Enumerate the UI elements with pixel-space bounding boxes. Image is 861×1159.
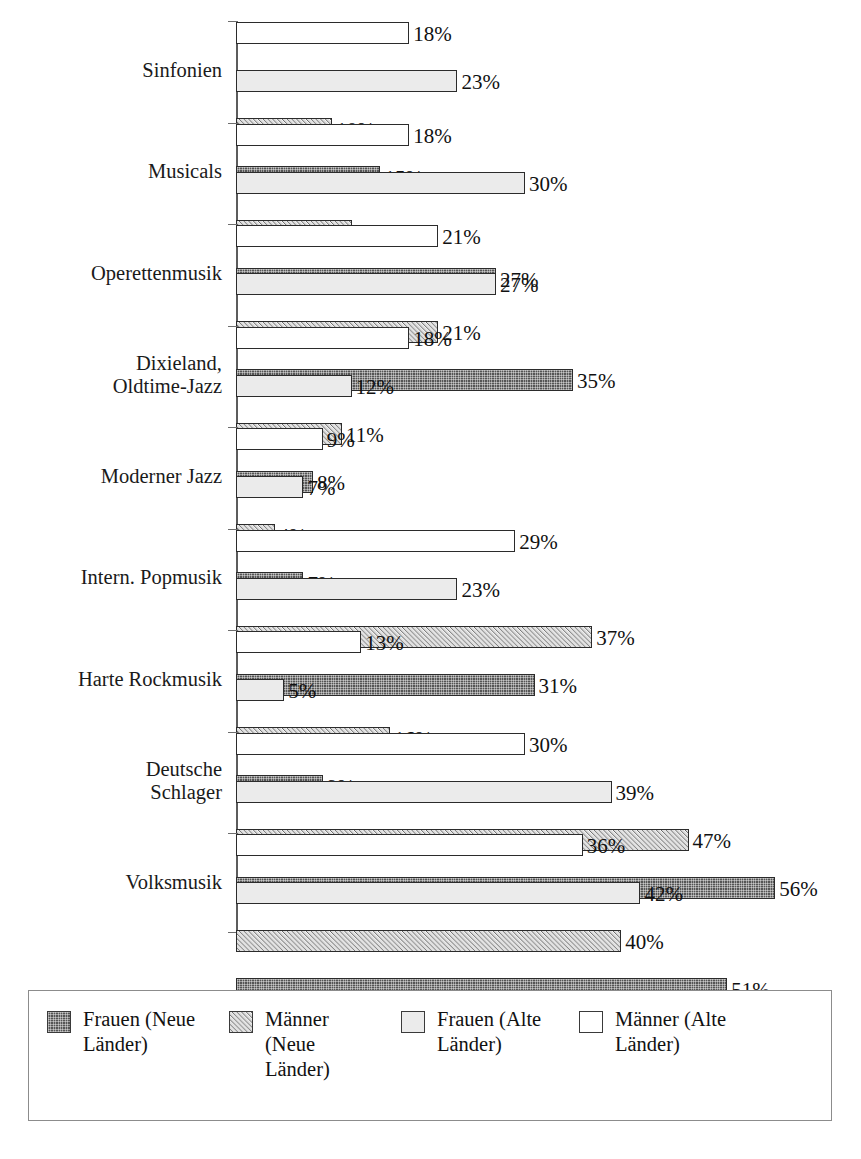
legend-item-maennerNeu[interactable]: Männer(NeueLänder)	[229, 1007, 359, 1082]
bar-value-label: 5%	[284, 681, 316, 702]
category-label-line: Schlager	[0, 781, 222, 804]
bar-maennerAlt[interactable]	[236, 530, 515, 552]
category-label-line: Harte Rockmusik	[0, 668, 222, 691]
bar-frauenAlt[interactable]	[236, 882, 640, 904]
category-label: Operettenmusik	[0, 262, 222, 285]
legend-label: Männer (AlteLänder)	[615, 1007, 759, 1057]
legend-swatch-maennerNeu	[229, 1011, 253, 1033]
legend-swatch-maennerAlt	[579, 1011, 603, 1033]
bar-maennerAlt[interactable]	[236, 225, 438, 247]
legend-label-line: (Neue	[265, 1032, 359, 1057]
bar-value-label: 9%	[323, 430, 355, 451]
bar-frauenAlt[interactable]	[236, 679, 284, 701]
bar-group: Harte Rockmusik13%5%16%9%	[0, 631, 861, 733]
category-label-line: Dixieland,	[0, 352, 222, 375]
bar-value-label: 23%	[457, 579, 500, 600]
legend-item-frauenAlt[interactable]: Frauen (AlteLänder)	[401, 1007, 576, 1057]
bar-value-label: 18%	[409, 125, 452, 146]
legend-label-line: Länder)	[615, 1032, 759, 1057]
category-label-line: Intern. Popmusik	[0, 566, 222, 589]
legend-swatch-frauenAlt	[401, 1011, 425, 1033]
bar-value-label: 18%	[409, 328, 452, 349]
bar-value-label: 21%	[438, 227, 481, 248]
category-label-line: Deutsche	[0, 758, 222, 781]
bar-value-label: 7%	[303, 478, 335, 499]
bar-value-label: 12%	[352, 376, 395, 397]
bar-group: Operettenmusik21%27%21%35%	[0, 225, 861, 327]
bar-group: Moderner Jazz9%7%4%7%	[0, 428, 861, 530]
category-label-line: Moderner Jazz	[0, 465, 222, 488]
bar-value-label: 40%	[621, 932, 664, 953]
bar-value-label: 36%	[583, 836, 626, 857]
category-label: Dixieland,Oldtime-Jazz	[0, 352, 222, 398]
bar-maennerAlt[interactable]	[236, 22, 409, 44]
category-label-line: Operettenmusik	[0, 262, 222, 285]
bar-value-label: 13%	[361, 633, 404, 654]
legend-label-line: Männer	[265, 1007, 359, 1032]
legend-label: Frauen (NeueLänder)	[83, 1007, 227, 1057]
bar-value-label: 30%	[525, 734, 568, 755]
bar-frauenAlt[interactable]	[236, 375, 352, 397]
legend-label-line: Länder)	[265, 1057, 359, 1082]
legend-label-line: Länder)	[83, 1032, 227, 1057]
bar-value-label: 18%	[409, 24, 452, 45]
category-label-line: Oldtime-Jazz	[0, 375, 222, 398]
bar-value-label: 29%	[515, 531, 558, 552]
bar-maennerAlt[interactable]	[236, 631, 361, 653]
bar-maennerAlt[interactable]	[236, 327, 409, 349]
bar-group: Dixieland,Oldtime-Jazz18%12%11%8%	[0, 327, 861, 429]
bar-value-label: 39%	[612, 782, 655, 803]
legend-swatch-frauenNeu	[47, 1011, 71, 1033]
bar-frauenAlt[interactable]	[236, 476, 303, 498]
category-label-line: Musicals	[0, 160, 222, 183]
bar-frauenAlt[interactable]	[236, 172, 525, 194]
bar-group: Musicals18%30%12%27%	[0, 124, 861, 226]
bar-value-label: 42%	[640, 884, 683, 905]
bar-group: DeutscheSchlager30%39%47%56%	[0, 733, 861, 835]
category-label-line: Volksmusik	[0, 871, 222, 894]
category-label: Volksmusik	[0, 871, 222, 894]
legend-label-line: Frauen (Alte	[437, 1007, 576, 1032]
bar-group: Intern. Popmusik29%23%37%31%	[0, 530, 861, 632]
category-label: DeutscheSchlager	[0, 758, 222, 804]
bar-maennerAlt[interactable]	[236, 733, 525, 755]
bar-maennerAlt[interactable]	[236, 428, 323, 450]
category-label: Intern. Popmusik	[0, 566, 222, 589]
legend-label-line: Länder)	[437, 1032, 576, 1057]
bar-group: Volksmusik36%42%40%51%	[0, 834, 861, 936]
bar-group: Sinfonien18%23%10%15%	[0, 22, 861, 124]
bar-value-label: 30%	[525, 173, 568, 194]
bar-value-label: 27%	[496, 275, 539, 296]
bar-maennerNeu[interactable]	[236, 930, 621, 952]
bar-frauenAlt[interactable]	[236, 578, 457, 600]
category-label: Sinfonien	[0, 59, 222, 82]
legend-label-line: Männer (Alte	[615, 1007, 759, 1032]
bar-frauenAlt[interactable]	[236, 273, 496, 295]
legend-item-maennerAlt[interactable]: Männer (AlteLänder)	[579, 1007, 759, 1057]
chart-legend: Frauen (NeueLänder)Männer(NeueLänder)Fra…	[28, 990, 832, 1121]
bar-maennerAlt[interactable]	[236, 124, 409, 146]
bar-frauenAlt[interactable]	[236, 781, 612, 803]
legend-item-frauenNeu[interactable]: Frauen (NeueLänder)	[47, 1007, 227, 1057]
category-label: Harte Rockmusik	[0, 668, 222, 691]
chart-root: Sinfonien18%23%10%15%Musicals18%30%12%27…	[0, 0, 861, 1159]
legend-items-container: Frauen (NeueLänder)Männer(NeueLänder)Fra…	[29, 991, 831, 1120]
legend-label: Frauen (AlteLänder)	[437, 1007, 576, 1057]
category-label: Musicals	[0, 160, 222, 183]
bar-value-label: 23%	[457, 72, 500, 93]
category-label-line: Sinfonien	[0, 59, 222, 82]
legend-label: Männer(NeueLänder)	[265, 1007, 359, 1082]
legend-label-line: Frauen (Neue	[83, 1007, 227, 1032]
plot-area: Sinfonien18%23%10%15%Musicals18%30%12%27…	[0, 0, 861, 955]
bar-maennerAlt[interactable]	[236, 834, 583, 856]
bar-frauenAlt[interactable]	[236, 70, 457, 92]
category-label: Moderner Jazz	[0, 465, 222, 488]
